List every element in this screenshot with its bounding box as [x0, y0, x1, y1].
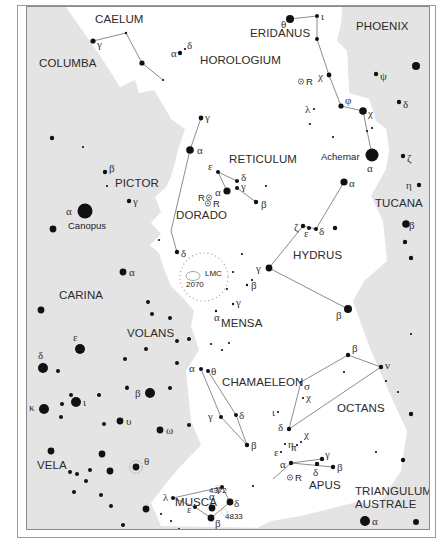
star-icon: [252, 485, 254, 487]
constellation-label-carina: CARINA: [59, 289, 103, 301]
star-icon: [280, 451, 282, 453]
star-icon: [178, 528, 180, 530]
star-icon: [331, 465, 335, 469]
star-designation: α: [129, 266, 135, 278]
star-icon: [366, 149, 379, 162]
star-designation: ζ: [407, 152, 412, 165]
star-icon: [162, 79, 164, 81]
star-designation: κ: [29, 401, 35, 413]
star-icon: [219, 415, 223, 419]
star-icon: [72, 490, 76, 494]
star-designation: δ: [234, 497, 239, 509]
star-designation: δ: [239, 409, 244, 421]
star-icon: [314, 227, 318, 231]
star-designation: γ: [255, 262, 261, 274]
star-designation: ε: [208, 160, 213, 172]
star-designation: δ: [319, 225, 324, 237]
star-icon: [359, 107, 367, 115]
star-icon: [401, 458, 405, 462]
star-icon: [228, 342, 230, 344]
star-icon: [75, 344, 85, 354]
star-designation: δ: [38, 349, 43, 361]
star-icon: [385, 380, 387, 382]
star-designation: λ: [163, 491, 169, 503]
star-designation: β: [135, 387, 141, 399]
star-icon: [48, 448, 55, 455]
star-icon: [50, 226, 57, 233]
star-icon: [133, 464, 140, 471]
star-chart-svg: γαδθιχφχψδλαζηαζεδβγβγαεδγαβδβγααεδβικυω…: [27, 7, 430, 530]
star-icon: [208, 515, 215, 522]
variable-star-core-icon: [300, 81, 302, 83]
star-icon: [360, 516, 370, 526]
star-designation: ε: [73, 331, 78, 343]
variable-star-label: R: [213, 198, 220, 209]
star-icon: [397, 100, 401, 104]
star-designation: β: [251, 439, 257, 451]
star-designation: γ: [132, 195, 138, 207]
star-icon: [102, 422, 106, 426]
star-designation: α: [372, 515, 378, 527]
star-designation: η: [406, 179, 412, 191]
star-icon: [216, 170, 220, 174]
star-icon: [417, 183, 421, 187]
constellation-label-eridanus: ERIDANUS: [250, 27, 310, 39]
star-icon: [254, 200, 258, 204]
star-designation: γ: [235, 296, 241, 308]
star-icon: [38, 363, 48, 373]
star-icon: [56, 369, 60, 373]
star-icon: [103, 170, 107, 174]
star-designation: α: [66, 205, 72, 217]
star-designation: β: [409, 219, 415, 231]
star-icon: [139, 60, 144, 65]
constellation-label-chamaeleon: CHAMAELEON: [222, 376, 304, 388]
star-designation: ι: [321, 10, 324, 22]
star-icon: [120, 269, 127, 276]
star-designation: θ: [144, 455, 149, 467]
star-icon: [84, 479, 88, 483]
star-icon: [187, 337, 191, 341]
star-designation: γ: [204, 111, 210, 123]
star-icon: [332, 136, 334, 138]
star-icon: [333, 226, 337, 230]
star-designation: ι: [83, 396, 86, 408]
star-designation: ι: [272, 406, 275, 418]
star-icon: [232, 303, 234, 305]
star-icon: [234, 413, 238, 417]
star-designation: α: [189, 362, 195, 374]
star-icon: [410, 333, 412, 335]
star-icon: [246, 284, 248, 286]
star-icon: [99, 493, 103, 497]
star-icon: [223, 187, 230, 194]
star-icon: [320, 457, 324, 461]
star-icon: [107, 468, 114, 475]
star-designation: χ: [305, 391, 311, 403]
constellation-label-tucana: TUCANA: [375, 197, 423, 209]
star-designation: γ: [207, 410, 213, 422]
constellation-label-apus: APUS: [309, 479, 341, 491]
star-icon: [97, 393, 101, 397]
star-designation: β: [251, 279, 257, 291]
star-icon: [170, 520, 172, 522]
star-icon: [221, 349, 223, 351]
constellation-label-pictor: PICTOR: [115, 177, 159, 189]
star-icon: [117, 418, 124, 425]
star-designation: γ: [96, 38, 102, 50]
star-icon: [106, 185, 108, 187]
constellation-label-reticulum: RETICULUM: [229, 153, 297, 165]
star-icon: [184, 48, 186, 50]
star-designation: δ: [313, 466, 318, 478]
star-designation: χ: [303, 428, 309, 440]
star-designation: β: [352, 342, 358, 354]
star-designation: δ: [278, 421, 283, 433]
star-designation: ω: [166, 424, 173, 436]
star-icon: [125, 32, 127, 34]
constellation-label-horologium: HOROLOGIUM: [200, 54, 281, 66]
star-designation: η: [288, 438, 294, 450]
star-icon: [409, 256, 413, 260]
star-designation: ν: [385, 359, 390, 371]
star-icon: [401, 154, 405, 158]
constellation-label-columba: COLUMBA: [39, 57, 97, 69]
star-icon: [186, 146, 194, 154]
star-icon: [315, 14, 319, 18]
